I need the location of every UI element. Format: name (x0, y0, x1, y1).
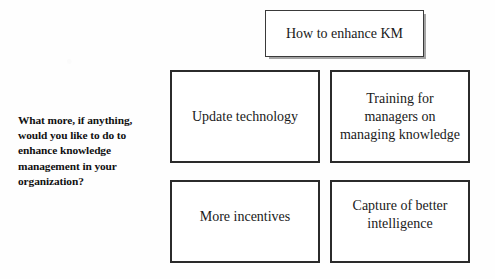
question-label: What more, if anything, would you like t… (18, 113, 164, 189)
option-box-label: Capture of better intelligence (336, 197, 464, 232)
option-box-capture-intelligence: Capture of better intelligence (330, 180, 470, 263)
option-box-more-incentives: More incentives (170, 180, 320, 263)
option-box-training-managers: Training for managers on managing knowle… (330, 70, 470, 163)
option-box-update-technology: Update technology (170, 70, 320, 163)
option-box-label: More incentives (200, 208, 291, 226)
title-box: How to enhance KM (265, 10, 424, 57)
option-box-label: Update technology (192, 108, 298, 126)
title-box-label: How to enhance KM (286, 25, 403, 42)
figure-canvas: What more, if anything, would you like t… (0, 0, 495, 279)
option-box-label: Training for managers on managing knowle… (339, 90, 461, 144)
